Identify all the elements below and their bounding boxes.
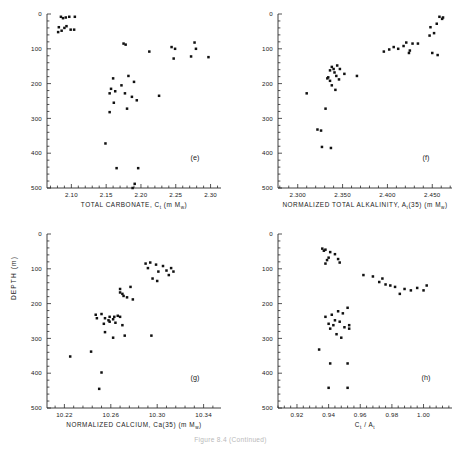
y-tick-label: 0 (38, 230, 42, 237)
data-point (126, 296, 129, 299)
data-point (124, 92, 127, 95)
data-point (316, 128, 319, 131)
data-point (402, 45, 405, 48)
data-point (156, 280, 159, 283)
data-point (422, 289, 425, 292)
data-point (372, 275, 375, 278)
data-point (433, 32, 436, 35)
x-tick-label: 2.450 (424, 191, 441, 198)
data-point (399, 293, 402, 296)
data-point (168, 274, 171, 277)
x-axis-title: Ct / At (355, 421, 375, 430)
y-tick-label: 400 (262, 149, 273, 156)
data-point (137, 167, 140, 170)
data-point (60, 29, 63, 32)
data-point (324, 262, 327, 265)
y-tick-label: 200 (31, 300, 42, 307)
data-point (73, 28, 76, 31)
data-point (338, 320, 341, 323)
data-point (348, 327, 351, 330)
x-tick-label: 0.98 (385, 411, 398, 418)
data-point (397, 48, 400, 51)
data-point (151, 277, 154, 280)
data-point (94, 313, 97, 316)
data-point (411, 42, 414, 45)
data-point (327, 387, 330, 390)
data-point (405, 41, 408, 44)
data-point (113, 101, 116, 104)
data-point (112, 318, 115, 321)
y-tick-label: 100 (31, 45, 42, 52)
data-point (329, 80, 332, 83)
y-tick-label: 100 (262, 45, 273, 52)
data-point (69, 355, 72, 358)
data-point (174, 48, 177, 51)
data-point (110, 88, 113, 91)
data-point (329, 251, 332, 254)
x-tick-label: 10.30 (149, 411, 166, 418)
data-point (409, 49, 412, 52)
data-point (113, 316, 116, 319)
x-tick-label: 1.00 (417, 411, 430, 418)
data-point (333, 71, 336, 74)
data-point (114, 321, 117, 324)
data-point (321, 146, 324, 149)
x-axis-title: NORMALIZED TOTAL ALKALINITY, At(35) (m M… (282, 201, 447, 210)
data-point (144, 262, 147, 265)
data-point (336, 64, 339, 67)
data-point (343, 73, 346, 76)
data-point (195, 48, 198, 51)
data-point (338, 261, 341, 264)
data-point (158, 95, 161, 98)
data-point (381, 277, 384, 280)
data-point (170, 267, 173, 270)
data-point (100, 371, 103, 374)
y-tick-label: 300 (31, 335, 42, 342)
data-point (326, 259, 329, 262)
data-point (62, 17, 64, 20)
data-point (74, 16, 77, 18)
data-point (172, 270, 175, 273)
y-tick-label: 400 (31, 149, 42, 156)
data-point (108, 320, 111, 323)
data-point (392, 46, 395, 49)
data-point (108, 92, 111, 95)
y-tick-label: 100 (262, 265, 273, 272)
figure-caption: Figure 8.4 (Continued) (0, 436, 461, 443)
data-point (129, 286, 132, 289)
data-point (96, 317, 99, 320)
data-point (320, 129, 323, 132)
data-point (356, 75, 359, 78)
data-point (148, 50, 151, 53)
y-tick-label: 200 (262, 300, 273, 307)
data-point (114, 90, 117, 93)
x-tick-label: 0.94 (322, 411, 335, 418)
x-axis-title: TOTAL CARBONATE, Ct (m Mw) (81, 201, 187, 210)
data-point (428, 34, 431, 37)
data-point (394, 286, 397, 289)
data-point (332, 68, 335, 71)
y-tick-label: 300 (262, 335, 273, 342)
y-tick-label: 0 (269, 230, 273, 237)
data-point (431, 52, 434, 55)
data-point (131, 96, 134, 99)
panel-label: (f) (423, 153, 430, 162)
y-tick-label: 200 (31, 80, 42, 87)
data-point (98, 388, 101, 391)
data-point (305, 92, 308, 95)
data-point (126, 107, 129, 110)
data-point (149, 261, 152, 264)
data-point (416, 287, 419, 290)
data-point (436, 22, 439, 25)
data-point (338, 78, 341, 81)
data-point (69, 28, 72, 31)
data-point (335, 75, 338, 78)
data-point (104, 331, 107, 334)
data-point (162, 265, 165, 268)
y-tick-label: 500 (262, 404, 273, 411)
data-point (324, 107, 327, 110)
data-point (157, 270, 160, 273)
data-point (335, 333, 338, 336)
data-point (115, 167, 118, 170)
y-tick-label: 400 (262, 369, 273, 376)
